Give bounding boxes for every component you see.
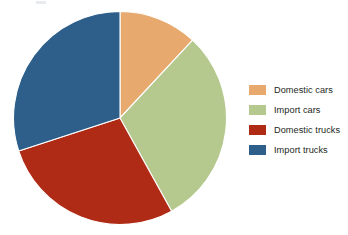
legend-label-domestic-cars: Domestic cars	[274, 85, 333, 96]
legend-item-domestic-trucks[interactable]: Domestic trucks	[249, 120, 345, 140]
legend-swatch-import-cars	[249, 105, 266, 115]
legend-item-import-trucks[interactable]: Import trucks	[249, 140, 345, 160]
legend-item-import-cars[interactable]: Import cars	[249, 100, 345, 120]
scan-artifact	[36, 1, 46, 4]
pie-chart	[13, 11, 227, 225]
legend-item-domestic-cars[interactable]: Domestic cars	[249, 80, 345, 100]
pie-chart-svg	[13, 11, 227, 225]
legend-label-import-trucks: Import trucks	[274, 145, 328, 156]
legend-label-domestic-trucks: Domestic trucks	[274, 125, 340, 136]
legend-swatch-domestic-trucks	[249, 125, 266, 135]
chart-legend: Domestic cars Import cars Domestic truck…	[249, 80, 345, 160]
legend-swatch-domestic-cars	[249, 85, 266, 95]
pie-chart-figure: Domestic cars Import cars Domestic truck…	[0, 0, 348, 235]
legend-label-import-cars: Import cars	[274, 105, 321, 116]
legend-swatch-import-trucks	[249, 145, 266, 155]
